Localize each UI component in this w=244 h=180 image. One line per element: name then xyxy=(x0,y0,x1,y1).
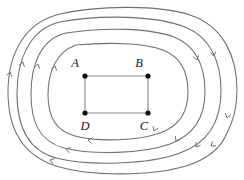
arrowheads-group xyxy=(7,52,231,164)
flow-arrow-7 xyxy=(194,56,199,60)
circuit-group: ABCD xyxy=(70,56,150,133)
figure-container: ABCD xyxy=(0,0,244,180)
vertex-label-D: D xyxy=(79,119,89,133)
field-line-diagram: ABCD xyxy=(0,0,244,180)
vertex-label-B: B xyxy=(135,56,143,70)
circuit-nodes xyxy=(82,73,150,115)
field-line-loop-2 xyxy=(31,29,205,152)
circuit-node-D xyxy=(82,110,87,115)
flow-arrow-13 xyxy=(211,142,216,146)
field-line-loop-1-innermost xyxy=(48,43,188,139)
flow-arrow-10 xyxy=(50,159,54,164)
vertex-label-C: C xyxy=(140,119,149,133)
field-lines-group xyxy=(8,7,237,174)
flow-arrow-5 xyxy=(175,136,180,141)
circuit-node-A xyxy=(82,73,87,78)
circuit-node-B xyxy=(145,73,150,78)
vertex-labels: ABCD xyxy=(70,56,148,133)
vertex-label-A: A xyxy=(70,56,79,70)
flow-arrow-12 xyxy=(225,114,230,118)
field-line-loop-4-outermost xyxy=(8,7,237,174)
circuit-node-C xyxy=(145,110,150,115)
flow-arrow-2 xyxy=(153,127,158,132)
circuit-edges xyxy=(85,76,148,113)
